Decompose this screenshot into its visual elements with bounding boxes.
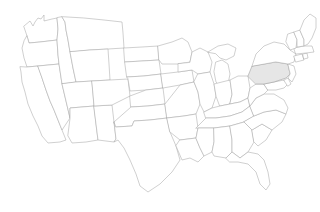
state-WA[interactable] (24, 15, 58, 43)
state-CO[interactable] (92, 79, 130, 106)
state-IN[interactable] (214, 80, 232, 106)
states-layer (20, 14, 316, 192)
state-RI[interactable] (303, 53, 308, 59)
state-ND[interactable] (124, 46, 159, 62)
us-states-map (0, 0, 320, 212)
state-WY[interactable] (70, 49, 110, 82)
state-AZ[interactable] (68, 106, 98, 143)
state-MN[interactable] (158, 38, 192, 64)
state-AL[interactable] (212, 126, 232, 158)
state-MO[interactable] (165, 82, 200, 118)
state-FL[interactable] (226, 152, 270, 190)
us-map-container (0, 0, 320, 212)
state-MT[interactable] (62, 17, 124, 52)
state-NM[interactable] (94, 105, 116, 142)
